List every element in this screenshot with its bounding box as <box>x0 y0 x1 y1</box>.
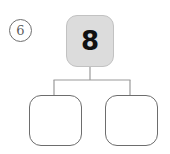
number-bond-child-node-left[interactable] <box>29 95 82 146</box>
number-bond-parent-node[interactable]: 8 <box>66 15 114 67</box>
parent-node-value: 8 <box>81 28 99 54</box>
number-bond-worksheet: 6 8 <box>0 0 170 154</box>
number-bond-child-node-right[interactable] <box>105 95 158 146</box>
